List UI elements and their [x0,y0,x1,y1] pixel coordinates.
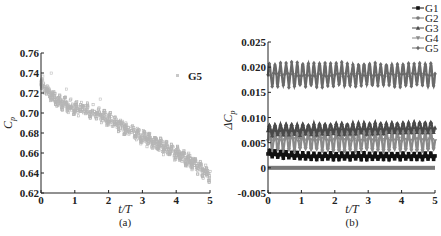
y-tick-label: 0.020 [241,61,266,73]
y-tick-label: 0.005 [241,137,266,149]
series-g2 [268,166,435,170]
y-tick-label: 0.025 [241,36,266,48]
figure: 0.620.640.660.680.700.720.740.76 012345 … [0,0,441,236]
x-tick-label: 5 [207,194,213,206]
x-tick-label: 1 [299,194,305,206]
y-tick-label: 0.64 [20,167,40,179]
y-axis-label-a: Cp [1,117,17,129]
x-tick-label: 0 [38,194,44,206]
chart-panel-a: 0.620.640.660.680.700.720.740.76 012345 … [1,47,213,229]
caption-a: (a) [119,216,132,229]
y-tick-label: 0.62 [20,187,40,199]
x-tick-label: 3 [140,194,146,206]
y-ticks-a: 0.620.640.660.680.700.720.740.76 [20,47,44,199]
y-axis-label-b: ΔCp [221,110,237,130]
x-axis-label-a: t/T [118,202,133,216]
x-axis-label-b: t/T [345,202,360,216]
x-tick-label: 2 [106,194,112,206]
legend-b: G1G2G3G4G5 [412,2,439,54]
y-tick-label: 0.76 [20,47,40,59]
legend-marker-g5 [176,74,179,77]
scatter-points-g5 [40,72,211,183]
x-tick-label: 4 [399,194,405,206]
y-tick-label: -0.005 [238,187,267,199]
y-tick-label: 0.010 [241,112,266,124]
x-tick-label: 4 [173,194,179,206]
legend-item-g5: G5 [412,42,439,54]
x-tick-label: 2 [332,194,338,206]
chart-panel-b: -0.00500.0050.0100.0150.0200.025 012345 … [221,2,439,229]
legend-label-g5: G5 [188,70,203,82]
legend-label: G5 [425,42,439,54]
y-tick-label: 0 [261,162,267,174]
y-tick-label: 0.015 [241,86,266,98]
y-tick-label: 0.74 [20,67,40,79]
series-g5 [266,60,437,90]
y-ticks-b: -0.00500.0050.0100.0150.0200.025 [238,36,271,199]
x-tick-label: 1 [72,194,78,206]
caption-b: (b) [346,216,359,229]
x-tick-label: 0 [265,194,271,206]
y-tick-label: 0.68 [20,127,40,139]
y-tick-label: 0.70 [20,107,40,119]
x-tick-label: 5 [432,194,438,206]
y-tick-label: 0.66 [20,147,40,159]
series-lines-b [266,60,437,170]
y-tick-label: 0.72 [20,87,40,99]
x-tick-label: 3 [365,194,371,206]
legend-a: G5 [176,70,203,82]
